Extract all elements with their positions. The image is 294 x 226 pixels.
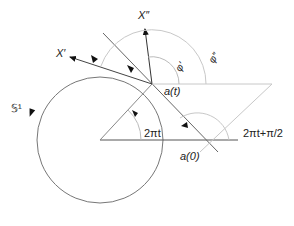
parallel-guide-line — [200, 84, 272, 152]
label-x-prime: X′ — [56, 48, 65, 59]
phi-prime-arc — [148, 57, 179, 84]
label-two-pi-t: 2πt — [144, 128, 161, 139]
label-x-double-prime: X″ — [138, 10, 149, 21]
label-a-t: a(t) — [164, 86, 181, 97]
diagram-canvas: X″ X′ φ′ φ″ a(t) 2πt 2πt+π/2 a(0) 𝕊¹ — [0, 0, 294, 226]
arc-arrow-two-pi-t-plus — [181, 122, 188, 128]
diagram-svg — [0, 0, 294, 226]
label-two-pi-t-plus-half-pi: 2πt+π/2 — [243, 128, 283, 139]
arc-arrow-tangent-top — [127, 65, 134, 73]
label-a-0: a(0) — [180, 151, 200, 162]
circle-orientation-arrow — [27, 108, 35, 118]
label-s1: 𝕊¹ — [11, 103, 22, 114]
arc-arrow-x-prime — [91, 55, 98, 63]
